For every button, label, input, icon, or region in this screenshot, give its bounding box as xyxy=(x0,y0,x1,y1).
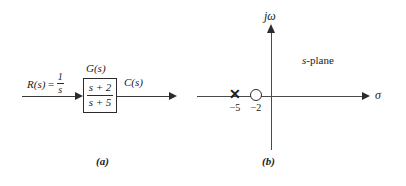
jomega-axis-arrowhead xyxy=(267,24,275,33)
input-signal-name: R(s) xyxy=(27,78,45,90)
s-plane-text-label: s-plane xyxy=(302,54,334,66)
block-title-label: G(s) xyxy=(86,62,106,74)
input-signal-label: R(s) = 1 s xyxy=(27,72,64,95)
jomega-axis-line xyxy=(271,32,272,150)
figure-root: R(s) = 1 s G(s) s + 2 s + 5 C(s) (a) xyxy=(0,0,406,186)
sigma-axis-label: σ xyxy=(375,88,381,103)
s-plane-suffix: -plane xyxy=(306,54,333,66)
caption-b: (b) xyxy=(262,155,275,167)
pole-tick-label: −5 xyxy=(226,102,244,113)
zero-marker-circle xyxy=(250,89,262,101)
input-signal-denominator: s xyxy=(58,85,62,95)
jomega-axis-label: jω xyxy=(264,9,276,24)
output-wire xyxy=(117,96,173,97)
input-signal-equals: = xyxy=(47,78,54,90)
zero-tick-label: −2 xyxy=(247,102,265,113)
output-signal-label: C(s) xyxy=(124,76,143,88)
sigma-axis-arrowhead xyxy=(362,92,370,100)
transfer-function-fraction: s + 2 s + 5 xyxy=(87,82,114,109)
input-signal-fraction: 1 s xyxy=(57,72,64,95)
caption-a: (a) xyxy=(96,155,109,167)
input-signal-numerator: 1 xyxy=(58,72,63,82)
transfer-function-denominator: s + 5 xyxy=(87,97,114,109)
output-arrowhead xyxy=(169,92,177,100)
pole-marker-x: ✕ xyxy=(228,88,241,101)
sigma-axis-line xyxy=(197,96,363,97)
transfer-function-block: s + 2 s + 5 xyxy=(83,78,117,113)
transfer-function-numerator: s + 2 xyxy=(87,82,114,94)
input-arrowhead xyxy=(75,92,83,100)
input-wire xyxy=(22,96,79,97)
